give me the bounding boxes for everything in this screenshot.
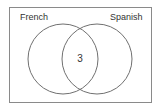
venn-diagram: French Spanish 3 — [0, 0, 157, 107]
spanish-label: Spanish — [110, 12, 143, 22]
intersection-value: 3 — [77, 53, 83, 64]
french-label: French — [20, 12, 48, 22]
